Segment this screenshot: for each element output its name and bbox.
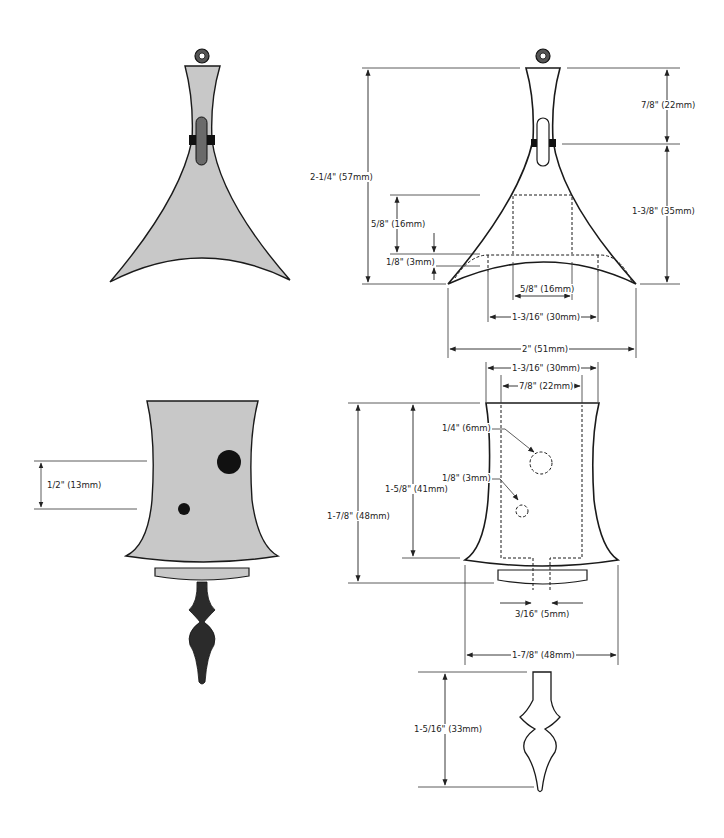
dim-bottom-base-width: 1-7/8" (48mm) (511, 650, 576, 660)
finial-outline (520, 672, 560, 792)
dim-top-overall-height: 2-1/4" (57mm) (309, 172, 374, 182)
dim-top-body-height: 1-3/8" (35mm) (631, 206, 696, 216)
dim-bottom-notch-width: 3/16" (5mm) (514, 609, 570, 619)
dim-finial-height: 1-5/16" (33mm) (413, 724, 483, 734)
small-hole-icon (178, 503, 190, 515)
dim-top-neck-height: 7/8" (22mm) (640, 100, 696, 110)
dim-bottom-top-width: 1-3/16" (30mm) (511, 363, 581, 373)
finial-shaded (189, 582, 215, 684)
large-hole-icon (217, 450, 241, 474)
dim-top-slot-depth: 5/8" (16mm) (370, 219, 426, 229)
dim-bottom-bore-width: 7/8" (22mm) (518, 381, 574, 391)
slot (196, 117, 207, 165)
dim-top-inner-width: 1-3/16" (30mm) (511, 312, 581, 322)
top-body (110, 66, 290, 282)
dim-top-arc-rise: 1/8" (3mm) (385, 257, 436, 267)
top-shaded-view (110, 49, 290, 282)
dim-bottom-small-hole: 1/8" (3mm) (441, 473, 492, 483)
dim-bottom-overall-height: 1-7/8" (48mm) (326, 511, 391, 521)
bottom-shaded-view (34, 401, 278, 684)
dim-top-slot-width: 5/8" (16mm) (519, 284, 575, 294)
dim-hole-spacing: 1/2" (13mm) (46, 480, 102, 490)
diagram-canvas (0, 0, 724, 838)
dim-bottom-bore-depth: 1-5/8" (41mm) (384, 484, 449, 494)
dim-top-overall-width: 2" (51mm) (521, 344, 569, 354)
dim-bottom-large-hole: 1/4" (6mm) (441, 423, 492, 433)
